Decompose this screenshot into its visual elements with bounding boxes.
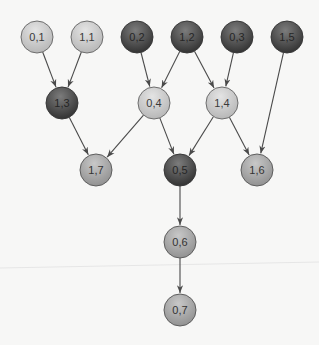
edge-1-4-to-1-6 [229,117,249,155]
node-label: 1,5 [279,31,294,43]
scan-artifact-line [0,262,319,268]
node-0-3[interactable]: 0,3 [221,21,253,53]
edge-0-1-to-1-3 [43,52,56,87]
edge-0-2-to-0-4 [141,52,150,86]
node-0-1[interactable]: 0,1 [21,21,53,53]
node-label: 1,4 [214,97,229,109]
node-label: 0,4 [146,97,161,109]
node-0-7[interactable]: 0,7 [164,294,196,326]
node-1-5[interactable]: 1,5 [271,21,303,53]
node-label: 0,2 [129,31,144,43]
node-label: 0,5 [172,164,187,176]
edge-1-4-to-0-5 [189,117,213,156]
edge-1-1-to-1-3 [68,52,81,87]
node-layer: 0,11,10,21,20,31,51,30,41,41,70,51,60,60… [21,21,303,326]
node-1-6[interactable]: 1,6 [241,154,273,186]
edge-1-3-to-1-7 [69,117,88,155]
node-label: 0,1 [29,31,44,43]
node-0-4[interactable]: 0,4 [138,87,170,119]
edge-1-2-to-1-4 [194,51,214,88]
graph-canvas: 0,11,10,21,20,31,51,30,41,41,70,51,60,60… [0,0,319,345]
node-label: 0,3 [229,31,244,43]
edge-1-2-to-0-4 [162,51,180,87]
edge-0-3-to-1-4 [226,53,234,87]
edge-0-4-to-1-7 [107,115,143,157]
node-1-7[interactable]: 1,7 [80,154,112,186]
node-1-4[interactable]: 1,4 [206,87,238,119]
node-label: 1,7 [88,164,103,176]
edge-1-5-to-1-6 [261,53,284,154]
node-1-2[interactable]: 1,2 [171,21,203,53]
node-label: 0,6 [172,236,187,248]
node-label: 1,6 [249,164,264,176]
node-0-5[interactable]: 0,5 [164,154,196,186]
node-label: 1,2 [179,31,194,43]
edge-0-4-to-0-5 [160,118,174,154]
node-label: 0,7 [172,304,187,316]
node-1-1[interactable]: 1,1 [71,21,103,53]
node-0-6[interactable]: 0,6 [164,226,196,258]
node-label: 1,1 [79,31,94,43]
node-0-2[interactable]: 0,2 [121,21,153,53]
node-label: 1,3 [54,97,69,109]
node-1-3[interactable]: 1,3 [46,87,78,119]
